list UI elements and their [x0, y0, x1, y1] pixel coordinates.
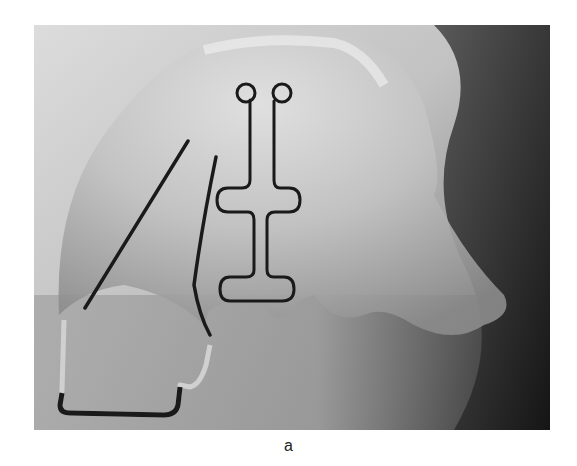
photo-rendering	[34, 25, 550, 430]
figure-caption: a	[0, 437, 577, 455]
appliance-photo	[34, 25, 550, 430]
